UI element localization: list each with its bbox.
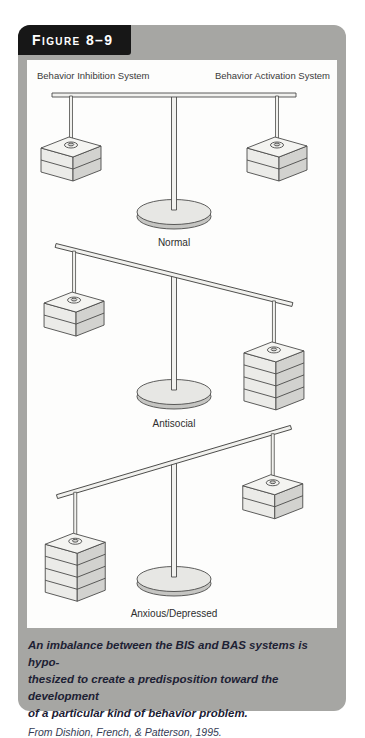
caption-line-2: thesized to create a predisposition towa…: [28, 671, 334, 705]
caption-line-3: of a particular kind of behavior problem…: [28, 705, 334, 722]
figure-number-label: Figure 8–9: [18, 25, 131, 55]
figure-caption: An imbalance between the BIS and BAS sys…: [28, 637, 334, 738]
diagram-panel: Behavior Inhibition System Behavior Acti…: [27, 60, 337, 628]
figure-card: Figure 8–9 Behavior Inhibition System Be…: [18, 25, 346, 711]
scale-label-anxious-depressed: Anxious/Depressed: [131, 608, 218, 619]
scale-label-antisocial: Antisocial: [153, 418, 196, 429]
caption-attribution: From Dishion, French, & Patterson, 1995.: [28, 725, 334, 738]
caption-line-1: An imbalance between the BIS and BAS sys…: [28, 637, 334, 671]
bis-header-label: Behavior Inhibition System: [37, 70, 149, 81]
caption-bold-text: An imbalance between the BIS and BAS sys…: [28, 637, 334, 722]
textbook-figure-page: Figure 8–9 Behavior Inhibition System Be…: [0, 0, 365, 738]
figure-number-text: Figure 8–9: [32, 32, 113, 48]
balance-scales-illustration: [27, 60, 337, 628]
bas-header-label: Behavior Activation System: [215, 70, 330, 81]
scale-label-normal: Normal: [158, 237, 190, 248]
